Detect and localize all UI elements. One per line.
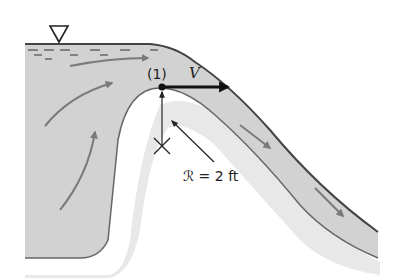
free-surface-triangle-icon — [50, 26, 68, 42]
radius-label: ℛ = 2 ft — [183, 168, 239, 184]
water-region — [25, 44, 378, 258]
spillway-diagram: (1) V ℛ = 2 ft — [0, 0, 404, 280]
point-1-label: (1) — [147, 66, 167, 82]
